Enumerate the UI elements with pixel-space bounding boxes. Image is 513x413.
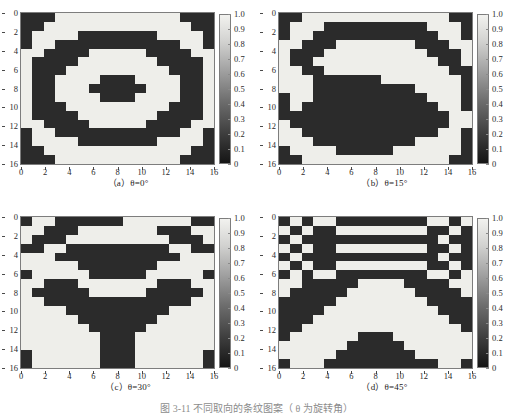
heatmap-cell — [313, 235, 324, 244]
colorbar-tick-label: 0.6 — [492, 70, 503, 79]
heatmap-cell — [336, 270, 347, 279]
heatmap-cell — [112, 315, 123, 324]
heatmap-cell — [157, 49, 168, 58]
heatmap-cell — [324, 13, 335, 22]
x-tick-label: 12 — [420, 372, 429, 381]
heatmap-cell — [313, 128, 324, 137]
heatmap-cell — [461, 146, 472, 155]
heatmap-cell — [89, 235, 100, 244]
heatmap-cell — [157, 253, 168, 262]
y-tick-label: 14 — [268, 345, 277, 354]
heatmap-cell — [44, 341, 55, 350]
colorbar-tick-label: 0.9 — [234, 229, 245, 238]
heatmap-cell — [393, 235, 404, 244]
heatmap-cell — [302, 40, 313, 49]
y-tick-mark — [260, 349, 263, 350]
heatmap-cell — [427, 253, 438, 262]
heatmap-cell — [78, 253, 89, 262]
heatmap-cell — [313, 137, 324, 146]
heatmap-cell — [112, 306, 123, 315]
x-tick-label: 6 — [91, 372, 95, 381]
colorbar-tick-label: 0.8 — [234, 40, 245, 49]
heatmap-cell — [66, 315, 77, 324]
heatmap-cell — [123, 270, 134, 279]
heatmap-cell — [449, 270, 460, 279]
heatmap-cell — [44, 66, 55, 75]
heatmap-cell — [146, 13, 157, 22]
y-tick-label: 0 — [272, 213, 276, 222]
heatmap-cell — [393, 102, 404, 111]
y-tick-label: 6 — [272, 269, 276, 278]
heatmap-cell — [146, 279, 157, 288]
heatmap-cell — [302, 49, 313, 58]
heatmap-cell — [157, 332, 168, 341]
heatmap-cell — [55, 75, 66, 84]
heatmap-cell — [100, 324, 111, 333]
heatmap-cell — [203, 253, 214, 262]
heatmap-cell — [21, 66, 32, 75]
heatmap-cell — [203, 244, 214, 253]
heatmap-cell — [302, 279, 313, 288]
heatmap-cell — [404, 359, 415, 368]
heatmap-cell — [203, 306, 214, 315]
y-tick-mark — [2, 89, 5, 90]
colorbar-tick-label: 0.6 — [234, 274, 245, 283]
heatmap-cell — [146, 306, 157, 315]
heatmap-cell — [169, 111, 180, 120]
colorbar-tick-label: 0.4 — [492, 304, 503, 313]
heatmap-cell — [302, 297, 313, 306]
heatmap-cell — [324, 324, 335, 333]
heatmap-cell — [279, 137, 290, 146]
heatmap-cell — [100, 31, 111, 40]
heatmap-cell — [169, 66, 180, 75]
x-tick-label: 16 — [468, 372, 477, 381]
heatmap-cell — [146, 288, 157, 297]
heatmap-cell — [302, 75, 313, 84]
heatmap-cell — [123, 40, 134, 49]
colorbar-tick-label: 0.4 — [234, 100, 245, 109]
heatmap-cell — [203, 350, 214, 359]
colorbar-c — [219, 218, 231, 368]
heatmap-cell — [89, 155, 100, 164]
heatmap-cell — [157, 31, 168, 40]
heatmap-cell — [123, 350, 134, 359]
colorbar-tick-label: 1.0 — [234, 10, 245, 19]
heatmap-cell — [393, 66, 404, 75]
heatmap-cell — [157, 66, 168, 75]
heatmap-cell — [336, 137, 347, 146]
heatmap-cell — [404, 102, 415, 111]
heatmap-cell — [381, 350, 392, 359]
colorbar-tick-label: 0.5 — [492, 85, 503, 94]
heatmap-cell — [290, 22, 301, 31]
heatmap-cell — [279, 253, 290, 262]
heatmap-cell — [66, 22, 77, 31]
heatmap-cell — [279, 31, 290, 40]
heatmap-cell — [180, 279, 191, 288]
heatmap-cell — [55, 297, 66, 306]
heatmap-cell — [157, 270, 168, 279]
y-tick-label: 8 — [272, 288, 276, 297]
heatmap-cell — [78, 306, 89, 315]
y-tick-mark — [2, 255, 5, 256]
heatmap-cell — [21, 57, 32, 66]
heatmap-cell — [393, 324, 404, 333]
colorbar-labels-d: 00.10.20.30.40.50.60.70.80.91.0 — [492, 218, 513, 368]
heatmap-cell — [336, 49, 347, 58]
heatmap-cell — [313, 217, 324, 226]
heatmap-cell — [279, 75, 290, 84]
heatmap-cell — [21, 137, 32, 146]
heatmap-cell — [302, 31, 313, 40]
heatmap-cell — [404, 40, 415, 49]
heatmap-cell — [393, 49, 404, 58]
heatmap-cell — [404, 270, 415, 279]
heatmap-cell — [279, 13, 290, 22]
heatmap-cell — [324, 253, 335, 262]
heatmap-cell — [146, 235, 157, 244]
heatmap-cell — [66, 270, 77, 279]
y-axis-d: 0246810121416 — [260, 216, 276, 369]
heatmap-cell — [290, 306, 301, 315]
heatmap-cell — [358, 40, 369, 49]
heatmap-cell — [123, 155, 134, 164]
heatmap-cell — [313, 279, 324, 288]
heatmap-cell — [370, 288, 381, 297]
